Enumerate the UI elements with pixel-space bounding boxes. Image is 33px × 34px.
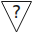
unknown-triangle-symbol: ? [0, 0, 33, 34]
question-mark-glyph: ? [0, 2, 33, 22]
